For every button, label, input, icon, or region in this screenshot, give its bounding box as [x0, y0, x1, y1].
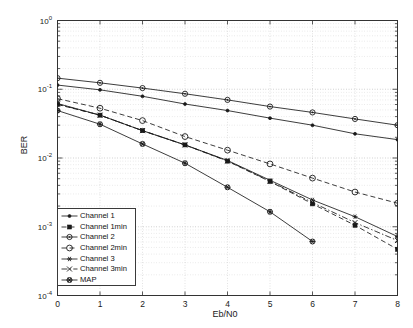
- y-tick-label: 10-3: [18, 221, 52, 232]
- figure-canvas: BER Eb/N0 Channel 1Channel 1minChannel 2…: [0, 0, 413, 328]
- y-tick-label: 10-1: [18, 83, 52, 94]
- x-tick-label: 3: [177, 299, 193, 309]
- legend-item-channel-2min[interactable]: Channel 2min: [60, 243, 135, 254]
- y-tick-label: 10-2: [18, 152, 52, 163]
- y-tick-label: 100: [18, 15, 52, 26]
- legend-label: Channel 1min: [79, 222, 127, 232]
- legend-label: Channel 2min: [79, 243, 127, 253]
- legend-marker-filled-dot-icon: [60, 211, 79, 221]
- x-tick-label: 8: [390, 299, 406, 309]
- legend-label: MAP: [79, 275, 96, 285]
- x-tick-label: 7: [347, 299, 363, 309]
- x-tick-label: 2: [135, 299, 151, 309]
- legend-marker-open-circle-icon: [60, 243, 79, 253]
- x-axis-title: Eb/N0: [170, 309, 280, 319]
- legend-marker-filled-square-icon: [60, 222, 79, 232]
- legend-label: Channel 2: [79, 232, 115, 242]
- legend-item-channel-1min[interactable]: Channel 1min: [60, 222, 135, 233]
- legend-item-channel-1[interactable]: Channel 1: [60, 211, 135, 222]
- legend-marker-asterisk-icon: [60, 254, 79, 264]
- legend-label: Channel 3min: [79, 264, 127, 274]
- legend-label: Channel 3: [79, 254, 115, 264]
- legend-marker-cross-x-icon: [60, 264, 79, 274]
- x-tick-label: 4: [220, 299, 236, 309]
- legend-marker-dotted-circle-icon: [60, 232, 79, 242]
- legend-marker-hexagram-icon: [60, 275, 79, 285]
- x-tick-label: 0: [50, 299, 66, 309]
- legend-item-channel-2[interactable]: Channel 2: [60, 232, 135, 243]
- chart-legend: Channel 1Channel 1minChannel 2Channel 2m…: [57, 208, 136, 286]
- x-tick-label: 1: [92, 299, 108, 309]
- legend-item-channel-3[interactable]: Channel 3: [60, 253, 135, 264]
- legend-item-map[interactable]: MAP: [60, 275, 135, 286]
- x-tick-label: 6: [305, 299, 321, 309]
- y-tick-label: 10-4: [18, 290, 52, 301]
- x-tick-label: 5: [262, 299, 278, 309]
- legend-item-channel-3min[interactable]: Channel 3min: [60, 264, 135, 275]
- legend-label: Channel 1: [79, 211, 115, 221]
- y-axis-title: BER: [19, 115, 29, 175]
